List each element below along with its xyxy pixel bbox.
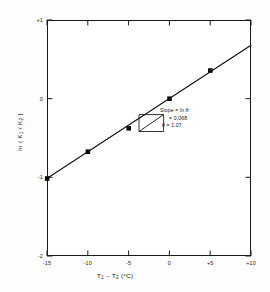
slope-annotation: Slope = ln θ = 0.068 θ = 1.07: [160, 107, 189, 130]
x-tick-label-5: +5: [200, 260, 220, 266]
y-axis-title-slash: / K: [16, 121, 23, 132]
annotation-line-slope: Slope = ln θ: [160, 107, 189, 115]
y-tick-label-4: -2: [27, 253, 43, 259]
annotation-line-value: = 0.068: [160, 115, 189, 123]
y-tick-label-2: 0: [27, 96, 43, 102]
y-axis-title-ln: ln ( K: [16, 134, 23, 151]
y-axis-title-sub2: 2: [19, 118, 24, 121]
x-axis-title-units: (°C): [119, 272, 134, 279]
x-tick-label-6: +10: [241, 260, 261, 266]
y-axis-title: ln ( K1 / K2 ): [16, 92, 24, 172]
x-tick-label-1: -15: [37, 260, 57, 266]
x-tick-label-4: 0: [159, 260, 179, 266]
x-tick-label-3: -5: [119, 260, 139, 266]
figure-canvas: +1 0 -1 -2 -15 -10 -5 0 +5 +10 T1 – T2 (…: [0, 0, 270, 292]
annotation-line-theta: θ = 1.07: [160, 122, 189, 130]
y-axis-title-close: ): [16, 113, 23, 117]
plot-frame: [47, 20, 251, 256]
y-axis-title-sub1: 1: [19, 131, 24, 134]
y-tick-label-3: -1: [27, 174, 43, 180]
x-axis-title: T1 – T2 (°C): [97, 272, 133, 280]
y-tick-label-1: +1: [27, 17, 43, 23]
x-axis-title-dash: –: [104, 272, 112, 279]
x-tick-label-2: -10: [78, 260, 98, 266]
